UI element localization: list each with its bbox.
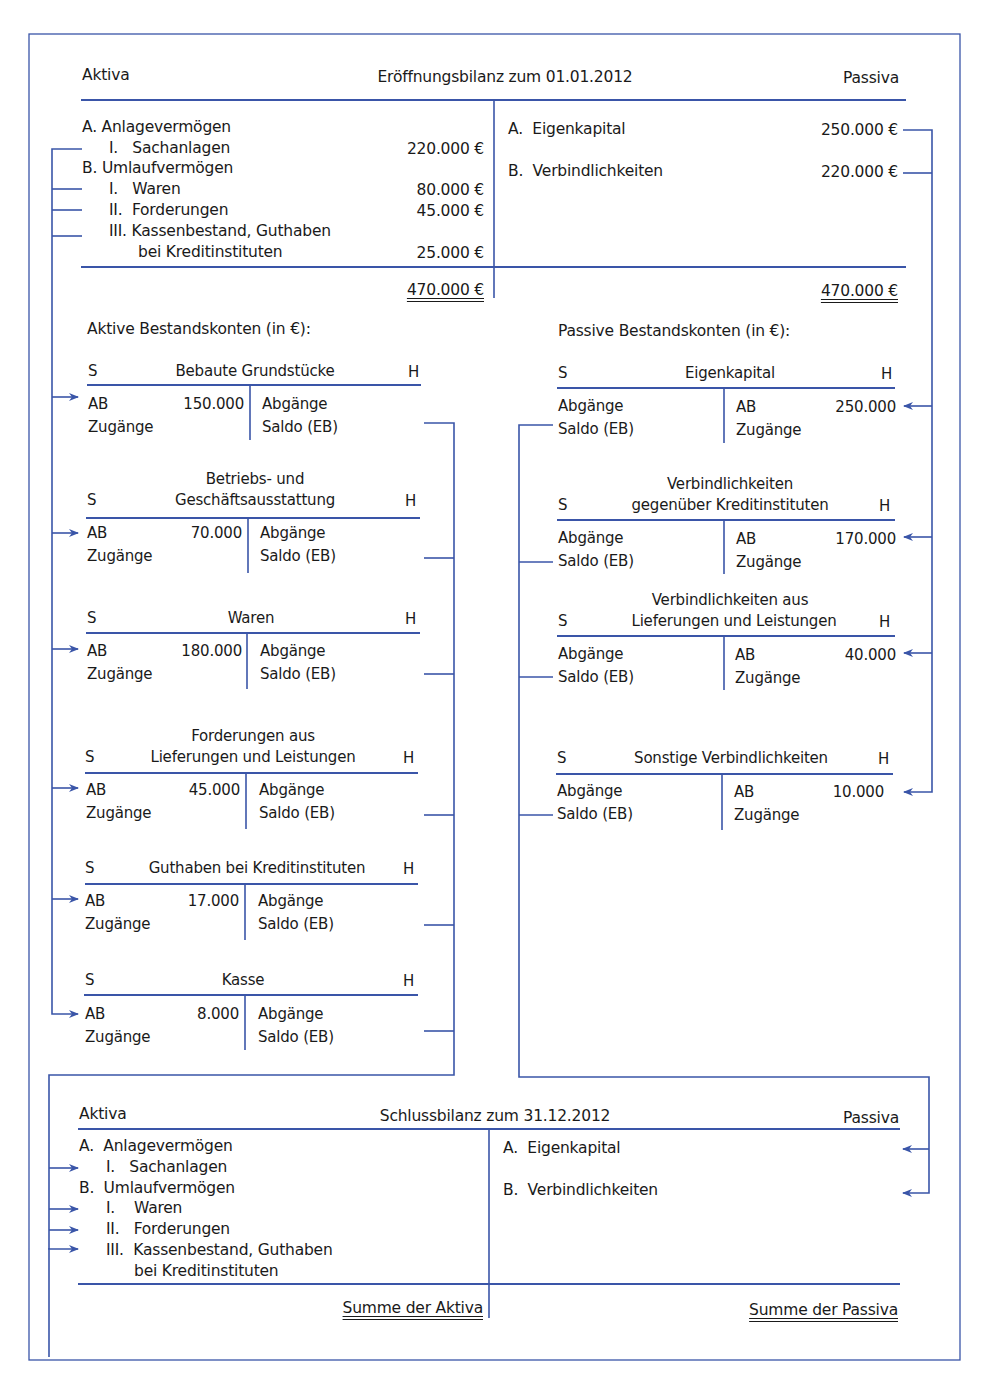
closing-passiva-item: A. Eigenkapital (503, 1138, 620, 1158)
closing-passiva-header: Passiva (760, 1108, 899, 1128)
opening-passiva-value: 250.000 € (790, 120, 898, 140)
credit-label: H (881, 364, 892, 384)
ab-label: AB (85, 1004, 105, 1024)
closing-aktiva-item: A. Anlagevermögen (79, 1136, 233, 1156)
closing-aktiva-header: Aktiva (79, 1104, 126, 1124)
opening-aktiva-value: 45.000 € (380, 201, 484, 221)
account-title: Eigenkapital (600, 363, 860, 383)
saldo-label: Saldo (EB) (258, 914, 334, 934)
abgaenge-label: Abgänge (558, 396, 623, 416)
zugaenge-label: Zugänge (736, 552, 801, 572)
opening-passiva-item: B. Verbindlichkeiten (508, 161, 663, 181)
account-title: Lieferungen und Leistungen (118, 747, 388, 767)
opening-aktiva-item: A. Anlagevermögen (82, 117, 231, 137)
closing-total-aktiva: Summe der Aktiva (300, 1298, 483, 1318)
debit-label: S (558, 611, 567, 631)
opening-balance-title: Eröffnungsbilanz zum 01.01.2012 (300, 67, 710, 87)
ab-value: 10.000 (788, 782, 884, 802)
account-title: Sonstige Verbindlichkeiten (600, 748, 862, 768)
active-accounts-heading: Aktive Bestandskonten (in €): (87, 319, 311, 339)
zugaenge-label: Zugänge (736, 420, 801, 440)
abgaenge-label: Abgänge (558, 644, 623, 664)
account-title: Lieferungen und Leistungen (600, 611, 868, 631)
opening-total-aktiva: 470.000 € (380, 280, 484, 300)
opening-aktiva-item: I. Waren (109, 179, 181, 199)
opening-aktiva-header: Aktiva (82, 65, 129, 85)
ab-value: 8.000 (155, 1004, 239, 1024)
abgaenge-label: Abgänge (259, 780, 324, 800)
ab-value: 45.000 (156, 780, 240, 800)
saldo-label: Saldo (EB) (259, 803, 335, 823)
abgaenge-label: Abgänge (557, 781, 622, 801)
debit-label: S (87, 608, 96, 628)
abgaenge-label: Abgänge (260, 641, 325, 661)
debit-label: S (88, 361, 97, 381)
credit-label: H (878, 749, 889, 769)
opening-passiva-item: A. Eigenkapital (508, 119, 625, 139)
ab-value: 250.000 (800, 397, 896, 417)
opening-aktiva-value: 220.000 € (380, 139, 484, 159)
credit-label: H (403, 859, 414, 879)
closing-aktiva-item: bei Kreditinstituten (134, 1261, 279, 1281)
abgaenge-label: Abgänge (558, 528, 623, 548)
credit-label: H (879, 612, 890, 632)
account-title-line1: Verbindlichkeiten aus (600, 590, 860, 610)
zugaenge-label: Zugänge (85, 1027, 150, 1047)
ab-value: 150.000 (160, 394, 244, 414)
ab-label: AB (734, 782, 754, 802)
ab-label: AB (87, 641, 107, 661)
ab-value: 40.000 (800, 645, 896, 665)
opening-total-passiva: 470.000 € (790, 281, 898, 301)
account-title: Waren (120, 608, 382, 628)
opening-passiva-value: 220.000 € (790, 162, 898, 182)
ab-value: 180.000 (158, 641, 242, 661)
debit-label: S (85, 858, 94, 878)
ab-label: AB (87, 523, 107, 543)
zugaenge-label: Zugänge (85, 914, 150, 934)
saldo-label: Saldo (EB) (260, 664, 336, 684)
closing-aktiva-item: B. Umlaufvermögen (79, 1178, 235, 1198)
ab-label: AB (736, 397, 756, 417)
zugaenge-label: Zugänge (734, 805, 799, 825)
abgaenge-label: Abgänge (262, 394, 327, 414)
credit-label: H (403, 971, 414, 991)
abgaenge-label: Abgänge (260, 523, 325, 543)
closing-total-passiva: Summe der Passiva (700, 1300, 898, 1320)
ab-label: AB (736, 529, 756, 549)
ab-label: AB (735, 645, 755, 665)
ab-label: AB (86, 780, 106, 800)
debit-label: S (558, 363, 567, 383)
opening-aktiva-value: 25.000 € (380, 243, 484, 263)
passive-accounts-heading: Passive Bestandskonten (in €): (558, 321, 790, 341)
closing-aktiva-item: III. Kassenbestand, Guthaben (106, 1240, 333, 1260)
opening-aktiva-item: B. Umlaufvermögen (82, 158, 233, 178)
ab-label: AB (85, 891, 105, 911)
abgaenge-label: Abgänge (258, 891, 323, 911)
ab-value: 17.000 (155, 891, 239, 911)
credit-label: H (405, 491, 416, 511)
credit-label: H (405, 609, 416, 629)
debit-label: S (87, 490, 96, 510)
abgaenge-label: Abgänge (258, 1004, 323, 1024)
credit-label: H (403, 748, 414, 768)
zugaenge-label: Zugänge (735, 668, 800, 688)
saldo-label: Saldo (EB) (260, 546, 336, 566)
credit-label: H (879, 496, 890, 516)
closing-aktiva-item: I. Sachanlagen (106, 1157, 227, 1177)
account-title-line1: Verbindlichkeiten (600, 474, 860, 494)
zugaenge-label: Zugänge (87, 664, 152, 684)
saldo-label: Saldo (EB) (558, 667, 634, 687)
debit-label: S (557, 748, 566, 768)
saldo-label: Saldo (EB) (558, 551, 634, 571)
zugaenge-label: Zugänge (87, 546, 152, 566)
debit-label: S (558, 495, 567, 515)
opening-aktiva-item: II. Forderungen (109, 200, 228, 220)
zugaenge-label: Zugänge (86, 803, 151, 823)
debit-label: S (85, 747, 94, 767)
opening-aktiva-item: bei Kreditinstituten (138, 242, 283, 262)
opening-aktiva-item: I. Sachanlagen (109, 138, 230, 158)
zugaenge-label: Zugänge (88, 417, 153, 437)
saldo-label: Saldo (EB) (258, 1027, 334, 1047)
saldo-label: Saldo (EB) (558, 419, 634, 439)
ab-value: 70.000 (158, 523, 242, 543)
